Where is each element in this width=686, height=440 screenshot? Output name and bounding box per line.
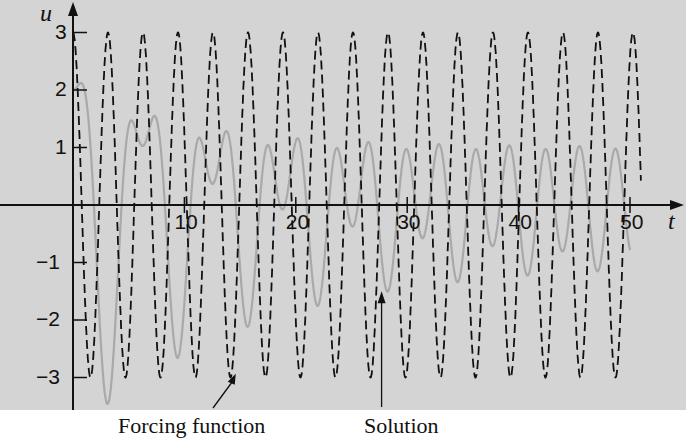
y-tick-label: −1	[36, 250, 60, 274]
solution-curve	[73, 83, 630, 404]
x-tick-label: 10	[174, 210, 197, 234]
y-axis-arrow-icon	[68, 2, 78, 16]
y-tick-label: −2	[36, 307, 60, 331]
chart-canvas	[0, 0, 686, 440]
solution-arrowhead-icon	[378, 291, 386, 303]
x-tick-label: 40	[509, 210, 532, 234]
y-tick-label: −3	[36, 365, 60, 389]
y-axis-label: u	[40, 0, 52, 27]
x-tick-label: 30	[397, 210, 420, 234]
x-tick-label: 50	[620, 210, 643, 234]
y-tick-label: 2	[55, 77, 67, 101]
x-tick-label: 20	[286, 210, 309, 234]
y-tick-label: 3	[55, 20, 67, 44]
x-axis-label: t	[668, 208, 675, 235]
y-tick-label: 1	[55, 135, 67, 159]
forcing-function-caption: Forcing function	[118, 413, 265, 439]
solution-caption: Solution	[364, 413, 439, 439]
forcing-arrow	[213, 380, 234, 408]
